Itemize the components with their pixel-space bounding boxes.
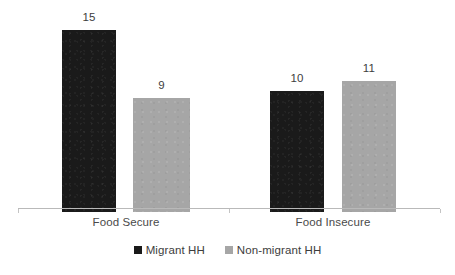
data-label-non-migrant-food-insecure: 11 — [342, 62, 396, 75]
bar-migrant-food-secure[interactable] — [62, 30, 116, 212]
bar-non-migrant-food-insecure[interactable] — [342, 81, 396, 212]
data-label-migrant-food-insecure: 10 — [270, 72, 324, 85]
legend: Migrant HH Non-migrant HH — [0, 244, 455, 256]
category-label-food-insecure: Food Insecure — [275, 216, 391, 228]
legend-item-non-migrant-hh[interactable]: Non-migrant HH — [225, 244, 321, 256]
legend-label-migrant-hh: Migrant HH — [146, 244, 205, 256]
category-label-food-secure: Food Secure — [68, 216, 184, 228]
bar-chart: 15 9 10 11 Food Secure Food Insecure Mig… — [0, 0, 455, 275]
plot-area: 15 9 10 11 — [0, 0, 455, 212]
legend-label-non-migrant-hh: Non-migrant HH — [237, 244, 321, 256]
legend-item-migrant-hh[interactable]: Migrant HH — [134, 244, 205, 256]
data-label-non-migrant-food-secure: 9 — [133, 79, 190, 92]
bar-non-migrant-food-secure[interactable] — [133, 98, 190, 212]
legend-swatch-icon — [134, 246, 142, 254]
axis-tick — [229, 209, 230, 213]
axis-tick — [440, 209, 441, 213]
legend-swatch-icon — [225, 246, 233, 254]
axis-tick — [18, 209, 19, 213]
bar-migrant-food-insecure[interactable] — [270, 91, 324, 212]
data-label-migrant-food-secure: 15 — [62, 11, 116, 24]
